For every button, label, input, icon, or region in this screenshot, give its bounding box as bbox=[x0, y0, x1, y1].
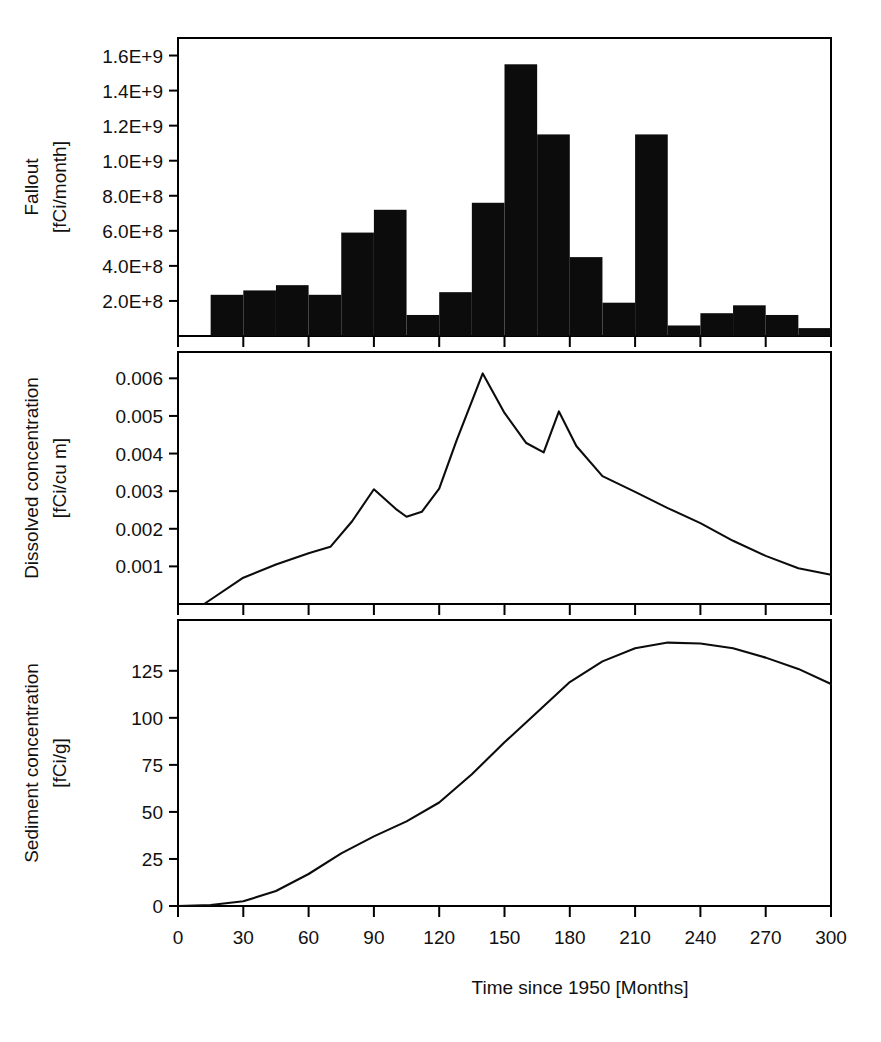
y-tick-label: 0.003 bbox=[115, 481, 163, 502]
bar bbox=[407, 315, 440, 336]
panel-dissolved-concentration: 0.0010.0020.0030.0040.0050.006Dissolved … bbox=[21, 352, 831, 615]
plot-frame bbox=[178, 620, 831, 906]
bar bbox=[766, 315, 799, 336]
bar bbox=[602, 303, 635, 336]
x-tick-label: 300 bbox=[815, 927, 847, 948]
bar bbox=[439, 292, 472, 336]
y-axis-title: Dissolved concentration bbox=[21, 377, 42, 579]
bar bbox=[798, 328, 831, 336]
plot-frame bbox=[178, 352, 831, 604]
y-tick-label: 8.0E+8 bbox=[102, 186, 163, 207]
bar bbox=[537, 134, 570, 336]
bar bbox=[276, 285, 309, 336]
x-axis-title: Time since 1950 [Months] bbox=[472, 977, 689, 998]
bar bbox=[668, 325, 701, 336]
x-tick-label: 210 bbox=[619, 927, 651, 948]
y-tick-label: 1.6E+9 bbox=[102, 46, 163, 67]
x-tick-label: 90 bbox=[363, 927, 384, 948]
y-axis-title: Sediment concentration bbox=[21, 663, 42, 863]
bar bbox=[635, 134, 668, 336]
panel-fallout: 2.0E+84.0E+86.0E+88.0E+81.0E+91.2E+91.4E… bbox=[21, 38, 831, 347]
y-tick-label: 125 bbox=[131, 661, 163, 682]
series-line bbox=[204, 373, 831, 604]
bar bbox=[243, 290, 276, 336]
y-axis-unit: [fCi/cu m] bbox=[49, 438, 70, 518]
x-tick-label: 120 bbox=[423, 927, 455, 948]
x-tick-label: 0 bbox=[173, 927, 184, 948]
y-tick-label: 0.001 bbox=[115, 556, 163, 577]
y-tick-label: 0.005 bbox=[115, 406, 163, 427]
x-tick-label: 270 bbox=[750, 927, 782, 948]
y-tick-label: 4.0E+8 bbox=[102, 256, 163, 277]
y-tick-label: 0.004 bbox=[115, 444, 163, 465]
x-tick-label: 180 bbox=[554, 927, 586, 948]
bar bbox=[341, 233, 374, 336]
bar bbox=[472, 203, 505, 336]
y-tick-label: 1.4E+9 bbox=[102, 81, 163, 102]
x-tick-label: 60 bbox=[298, 927, 319, 948]
y-tick-label: 2.0E+8 bbox=[102, 291, 163, 312]
bar bbox=[733, 305, 766, 336]
y-axis-title: Fallout bbox=[21, 158, 42, 216]
y-axis-unit: [fCi/g] bbox=[49, 738, 70, 788]
bar bbox=[700, 313, 733, 336]
bar bbox=[374, 210, 407, 336]
y-tick-label: 1.2E+9 bbox=[102, 116, 163, 137]
y-tick-label: 25 bbox=[142, 849, 163, 870]
three-panel-figure: 2.0E+84.0E+86.0E+88.0E+81.0E+91.2E+91.4E… bbox=[0, 0, 881, 1042]
bar bbox=[309, 295, 342, 336]
y-tick-label: 1.0E+9 bbox=[102, 151, 163, 172]
y-tick-label: 75 bbox=[142, 755, 163, 776]
y-tick-label: 0 bbox=[152, 896, 163, 917]
series-line bbox=[178, 643, 831, 906]
y-tick-label: 100 bbox=[131, 708, 163, 729]
y-tick-label: 0.006 bbox=[115, 368, 163, 389]
panel-sediment-concentration: 0255075100125030609012015018021024027030… bbox=[21, 620, 847, 948]
x-tick-label: 30 bbox=[233, 927, 254, 948]
y-tick-label: 50 bbox=[142, 802, 163, 823]
bar bbox=[211, 295, 244, 336]
bar bbox=[570, 257, 603, 336]
bar bbox=[505, 64, 538, 336]
y-tick-label: 0.002 bbox=[115, 519, 163, 540]
y-tick-label: 6.0E+8 bbox=[102, 221, 163, 242]
x-tick-label: 240 bbox=[685, 927, 717, 948]
y-axis-unit: [fCi/month] bbox=[49, 141, 70, 233]
x-tick-label: 150 bbox=[489, 927, 521, 948]
